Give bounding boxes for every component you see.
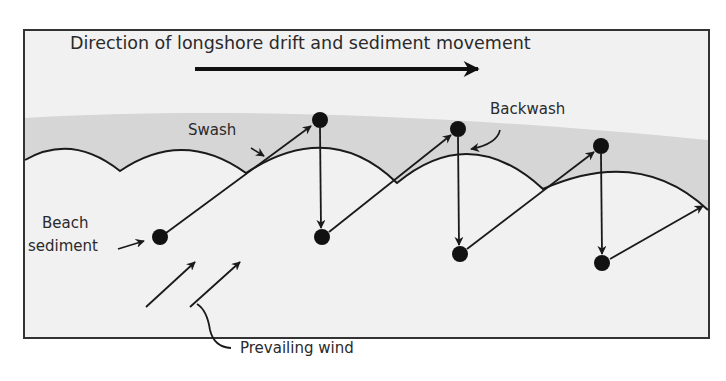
beach-sediment-label-line2: sediment — [28, 237, 98, 255]
longshore-drift-diagram — [0, 0, 726, 381]
direction-label: Direction of longshore drift and sedimen… — [70, 33, 531, 53]
beach-sediment-label-line1: Beach — [42, 214, 88, 232]
prevailing-wind-label: Prevailing wind — [240, 339, 354, 357]
sediment-dot — [450, 121, 466, 137]
backwash-arrow-1 — [320, 128, 321, 228]
sediment-dot — [152, 229, 168, 245]
sediment-dot — [593, 138, 609, 154]
sediment-dot — [594, 255, 610, 271]
swash-label: Swash — [188, 121, 236, 139]
backwash-arrow-3 — [601, 154, 602, 254]
diagram-frame — [24, 30, 709, 338]
sediment-dot — [314, 229, 330, 245]
backwash-arrow-2 — [458, 137, 459, 245]
backwash-label: Backwash — [490, 100, 565, 118]
sediment-dot — [312, 112, 328, 128]
sediment-dot — [452, 246, 468, 262]
